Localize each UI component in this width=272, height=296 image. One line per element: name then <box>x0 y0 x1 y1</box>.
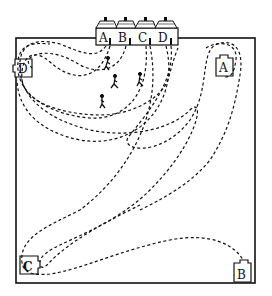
path-house-c-to-b <box>22 46 243 274</box>
walking-figures <box>100 56 143 108</box>
houses-row: A B C D <box>96 17 178 45</box>
house-label-c: C <box>138 31 147 45</box>
path-house-a-to-c <box>20 42 198 262</box>
box-c: C <box>20 256 40 274</box>
box-a: A <box>216 55 233 76</box>
house-label-d: D <box>158 31 168 45</box>
box-label-a: A <box>218 61 228 75</box>
path-loop-3 <box>17 46 169 141</box>
house-label-a: A <box>98 31 108 45</box>
walking-figure-3 <box>137 72 143 86</box>
box-label-b: B <box>237 268 246 282</box>
path-loop-1 <box>22 46 178 115</box>
puzzle-diagram: A B C D D A <box>0 0 272 296</box>
house-label-b: B <box>118 31 127 45</box>
walking-figure-4 <box>100 94 105 108</box>
path-d-to-c <box>40 205 140 267</box>
box-b: B <box>234 260 251 282</box>
path-house-b-to-d <box>28 46 126 70</box>
dashed-paths <box>17 42 243 275</box>
walking-figure-2 <box>111 74 118 88</box>
